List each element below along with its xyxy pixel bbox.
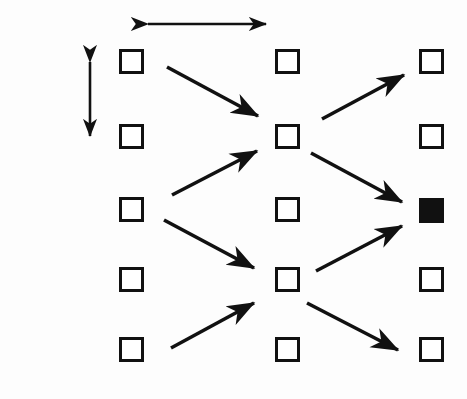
arrow-ij-to-i1j1: [172, 151, 257, 195]
arrow-im1j1-to-ij2: [316, 226, 402, 271]
arrow-i1j1-to-i2j2: [322, 75, 404, 119]
grid-node: [275, 49, 300, 74]
grid-node: [275, 267, 300, 292]
grid-node: [275, 197, 300, 222]
grid-node: [275, 124, 300, 149]
grid-node: [419, 49, 444, 74]
grid-node: [119, 49, 144, 74]
grid-node: [275, 337, 300, 362]
arrow-i1j1-to-ij2: [311, 153, 402, 202]
arrow-im2j-to-im1j1: [171, 303, 254, 348]
arrow-im1j1-to-im2j2: [307, 303, 398, 350]
grid-node: [419, 267, 444, 292]
grid-node: [419, 337, 444, 362]
stencil-vector-layer: [0, 0, 467, 399]
grid-node-target: [419, 198, 444, 223]
stencil-diagram: [0, 0, 467, 399]
arrow-i2j-to-i1j1: [167, 67, 258, 116]
grid-node: [119, 124, 144, 149]
spacing-annotation-layer: [90, 24, 266, 136]
arrow-ij-to-im1j1: [164, 220, 254, 268]
grid-node: [419, 124, 444, 149]
grid-node: [119, 197, 144, 222]
grid-node: [119, 337, 144, 362]
grid-node: [119, 267, 144, 292]
